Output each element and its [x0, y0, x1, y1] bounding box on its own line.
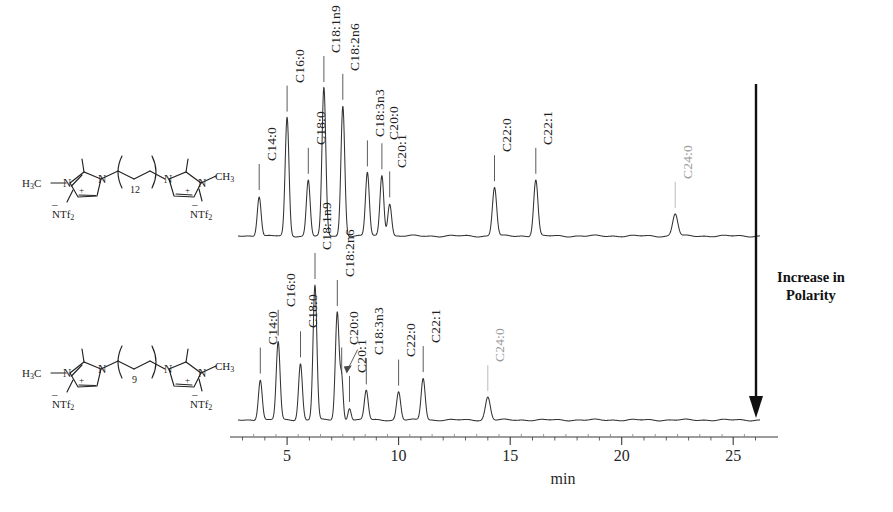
x-axis-tick-label-25: 25 [725, 447, 741, 465]
polarity-annotation-label: Increase in Polarity [777, 268, 845, 304]
downward-arrow [736, 82, 776, 422]
x-axis-tick-label-15: 15 [502, 447, 518, 465]
x-axis-tick-label-5: 5 [283, 447, 291, 465]
x-axis-tick-label-20: 20 [614, 447, 630, 465]
x-axis-unit-label: min [551, 470, 576, 488]
chromatogram-figure: H3C N N N N CH3 + + NTf2 – NTf2 – 12 [0, 0, 893, 512]
x-axis-tick-label-10: 10 [391, 447, 407, 465]
